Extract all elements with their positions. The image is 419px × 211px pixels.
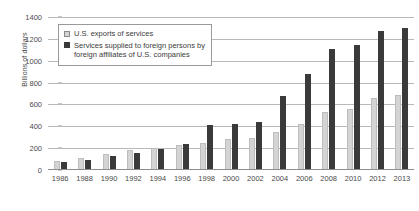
y-axis-tick-label: 0: [14, 166, 42, 175]
bar: [322, 112, 328, 170]
bar: [305, 74, 311, 170]
y-axis-tick-label: 600: [14, 100, 42, 109]
x-axis-tick-label: 1998: [194, 174, 218, 183]
bar: [280, 96, 286, 170]
bar: [354, 45, 360, 170]
x-axis-tick-label: 2002: [243, 174, 267, 183]
bar: [158, 149, 164, 170]
y-axis-tick-label: 200: [14, 144, 42, 153]
bar-chart: Billions of dollars 02004006008001000120…: [0, 0, 419, 211]
bar: [200, 143, 206, 170]
y-axis-tick-label: 1400: [14, 13, 42, 22]
bar-group: [243, 17, 267, 170]
legend-swatch-light-icon: [64, 31, 70, 37]
legend-swatch-dark-icon: [64, 42, 70, 48]
x-axis-tick-label: 2012: [365, 174, 389, 183]
bar: [225, 139, 231, 170]
x-axis-tick-label: 2010: [341, 174, 365, 183]
legend-item-label: U.S. exports of services: [74, 29, 153, 39]
bar: [371, 98, 377, 170]
x-axis-tick-label: 2000: [219, 174, 243, 183]
legend-item-label: Services supplied to foreign persons by …: [74, 41, 205, 60]
bar-group: [390, 17, 414, 170]
bar: [256, 122, 262, 170]
bar: [183, 144, 189, 170]
x-axis-tick-label: 2008: [316, 174, 340, 183]
y-axis-tick-label: 1200: [14, 34, 42, 43]
legend-item-1: Services supplied to foreign persons by …: [64, 41, 205, 60]
x-axis-tick-label: 2006: [292, 174, 316, 183]
bar: [103, 154, 109, 170]
bar: [347, 109, 353, 170]
bar: [249, 138, 255, 170]
bar: [273, 132, 279, 170]
x-axis-tick-label: 1992: [121, 174, 145, 183]
bar-group: [292, 17, 316, 170]
x-axis-line: [48, 169, 414, 170]
y-axis-tick-label: 800: [14, 78, 42, 87]
bar: [232, 124, 238, 170]
bar: [395, 95, 401, 170]
bar: [110, 156, 116, 170]
bar: [151, 148, 157, 170]
bar: [127, 150, 133, 170]
chart-legend: U.S. exports of services Services suppli…: [58, 24, 212, 66]
x-axis-tick-label: 1996: [170, 174, 194, 183]
x-axis-tick-label: 2004: [268, 174, 292, 183]
bar-group: [341, 17, 365, 170]
x-axis-tick-label: 1986: [48, 174, 72, 183]
bar-group: [268, 17, 292, 170]
bar: [134, 153, 140, 170]
x-axis-tick-labels: 1986198819901992199419961998200020022004…: [48, 174, 414, 183]
bar: [207, 125, 213, 170]
bar: [176, 145, 182, 170]
bar: [298, 124, 304, 170]
bar-group: [219, 17, 243, 170]
y-axis-tick-label: 1000: [14, 56, 42, 65]
bar: [329, 49, 335, 170]
x-axis-tick-label: 1990: [97, 174, 121, 183]
legend-item-0: U.S. exports of services: [64, 29, 205, 39]
y-axis-tick-label: 400: [14, 122, 42, 131]
bar-group: [316, 17, 340, 170]
bar: [402, 28, 408, 170]
x-axis-tick-label: 1988: [72, 174, 96, 183]
x-axis-tick-label: 1994: [146, 174, 170, 183]
x-axis-tick-label: 2013: [390, 174, 414, 183]
bar: [378, 31, 384, 170]
y-axis-tick-labels: 0200400600800100012001400: [14, 0, 42, 211]
bar-group: [365, 17, 389, 170]
